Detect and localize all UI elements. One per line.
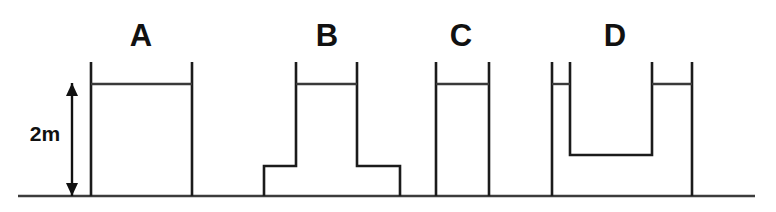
vessel-D-walls	[552, 62, 692, 196]
dimension-annotation-2m: 2m	[30, 83, 78, 196]
vessel-C-label: C	[450, 18, 472, 53]
figure-container: 2m A B C D	[0, 0, 776, 212]
vessel-B: B	[264, 18, 400, 196]
vessel-A-label: A	[130, 18, 152, 53]
vessel-A: A	[91, 18, 192, 196]
vessel-A-walls	[91, 62, 192, 196]
vessel-D-label: D	[604, 18, 626, 53]
arrow-head-down-icon	[66, 183, 78, 196]
vessel-C: C	[436, 18, 489, 196]
vessel-D: D	[552, 18, 692, 196]
arrow-head-up-icon	[66, 83, 78, 96]
vessels-diagram: 2m A B C D	[0, 0, 776, 212]
dimension-label-2m: 2m	[30, 122, 60, 145]
vessel-C-walls	[436, 62, 489, 196]
vessel-B-walls	[264, 62, 400, 196]
vessel-B-label: B	[316, 18, 338, 53]
